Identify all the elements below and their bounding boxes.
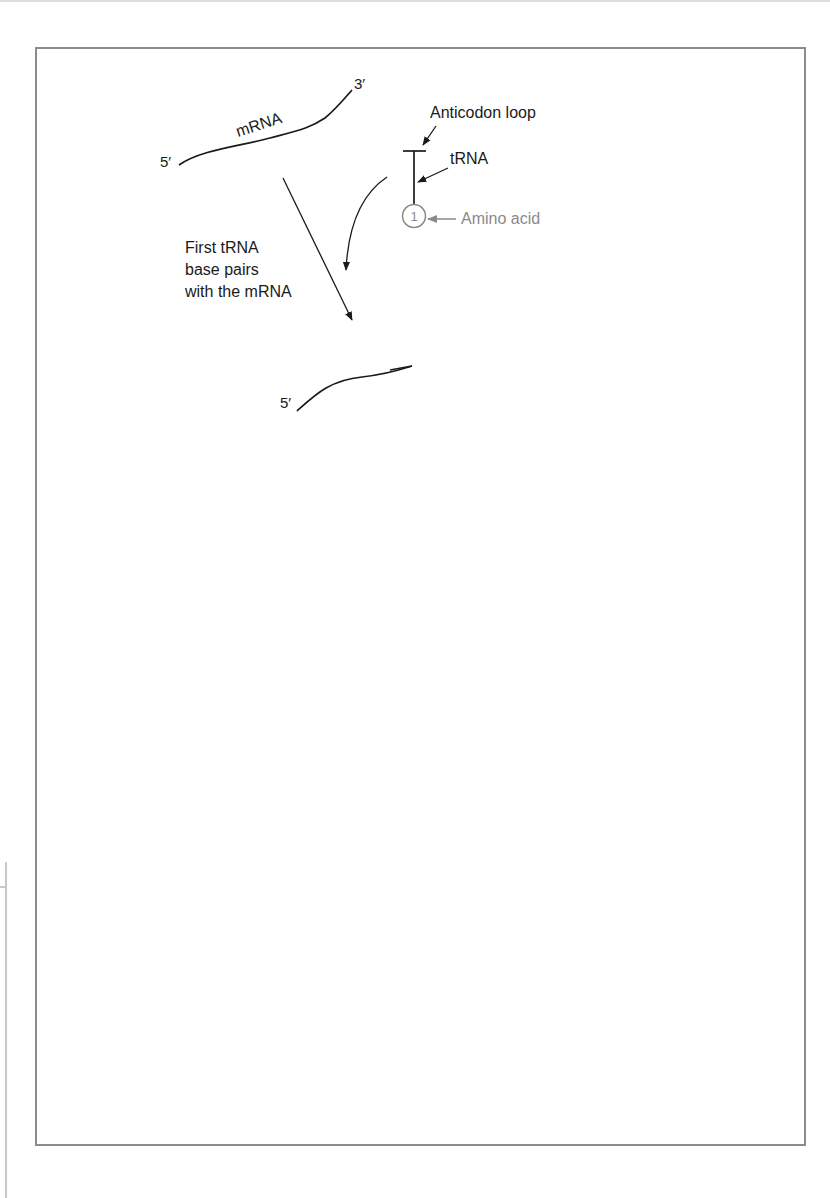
translation-diagram: 5′ 3′ mRNA Anticodon loop tRNA 1 Amino a… <box>0 0 830 1198</box>
anticodon-loop-label: Anticodon loop <box>430 104 536 121</box>
trna-approach-arrow <box>346 177 387 270</box>
three-prime-label: 3′ <box>354 75 365 92</box>
flow-arrow-to-stage-2 <box>283 178 352 320</box>
five-prime-label: 5′ <box>160 153 171 170</box>
mrna-strand <box>297 366 412 411</box>
amino-acid-1-number: 1 <box>410 209 417 224</box>
trna-label: tRNA <box>450 150 489 167</box>
five-prime-label: 5′ <box>280 394 291 411</box>
anticodon-pointer-arrow <box>423 126 436 145</box>
mrna-label: mRNA <box>234 109 284 140</box>
stage-2: 5′ <box>280 361 439 411</box>
amino-acid-label: Amino acid <box>461 210 540 227</box>
step-1-caption: First tRNA base pairs with the mRNA <box>184 239 292 300</box>
trna-pointer-arrow <box>418 168 448 182</box>
